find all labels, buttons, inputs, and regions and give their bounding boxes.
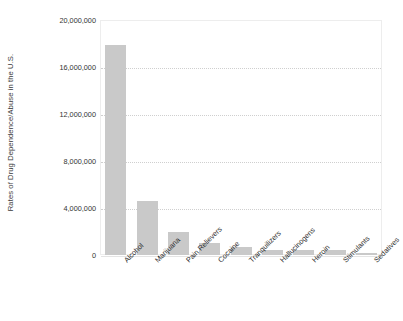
y-axis-tick-label: 0 xyxy=(24,251,96,260)
bars-layer xyxy=(100,20,382,255)
bar-chart: Rates of Drug Dependence/Abuse in the U.… xyxy=(0,0,403,321)
y-axis-tick-label: 4,000,000 xyxy=(24,204,96,213)
x-axis-tick-label: Stimulants xyxy=(341,258,347,264)
y-axis-tick-label: 12,000,000 xyxy=(24,110,96,119)
x-axis-tick-label: Heroin xyxy=(310,258,316,264)
y-axis-tick-label: 16,000,000 xyxy=(24,63,96,72)
y-axis-tick-label: 20,000,000 xyxy=(24,16,96,25)
y-axis-title-text: Rates of Drug Dependence/Abuse in the U.… xyxy=(7,54,16,211)
x-axis-tick-label: Cocaine xyxy=(216,258,222,264)
y-axis-tick-label: 8,000,000 xyxy=(24,157,96,166)
x-axis-tick-label: Sedatives xyxy=(372,258,378,264)
x-axis-tick-label: Pain Relievers xyxy=(184,258,190,264)
x-axis-tick-label: Marijuana xyxy=(153,258,159,264)
y-axis-title: Rates of Drug Dependence/Abuse in the U.… xyxy=(0,0,22,265)
bar xyxy=(105,45,126,255)
x-axis-tick-label: Tranquilizers xyxy=(247,258,253,264)
gridline xyxy=(101,256,381,257)
x-axis-tick-label: Alcohol xyxy=(122,258,128,264)
x-axis-tick-label: Hallucinogens xyxy=(278,258,284,264)
